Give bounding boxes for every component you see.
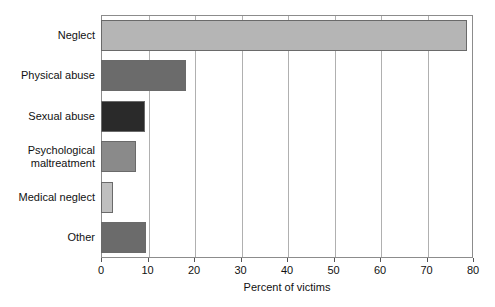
x-tick-mark	[380, 258, 381, 262]
x-tick-mark	[473, 258, 474, 262]
category-label: Medical neglect	[0, 191, 95, 204]
category-labels: NeglectPhysical abuseSexual abusePsychol…	[0, 15, 95, 258]
x-tick-mark	[148, 258, 149, 262]
x-tick-label: 60	[360, 264, 400, 276]
bar-row	[101, 101, 473, 132]
x-tick-label: 80	[453, 264, 493, 276]
bar	[101, 182, 113, 213]
x-tick-label: 30	[221, 264, 261, 276]
category-label: Sexual abuse	[0, 110, 95, 123]
x-tick-label: 40	[267, 264, 307, 276]
x-tick-mark	[287, 258, 288, 262]
x-tick-label: 20	[174, 264, 214, 276]
bar	[101, 141, 136, 172]
x-tick-label: 50	[314, 264, 354, 276]
bar-row	[101, 20, 473, 51]
bar-chart: NeglectPhysical abuseSexual abusePsychol…	[0, 0, 495, 307]
x-tick-mark	[334, 258, 335, 262]
x-tick-label: 0	[81, 264, 121, 276]
category-label: Psychological maltreatment	[0, 144, 95, 170]
bar	[101, 101, 145, 132]
x-tick-label: 10	[128, 264, 168, 276]
bar-row	[101, 182, 473, 213]
x-tick-mark	[427, 258, 428, 262]
x-tick-mark	[194, 258, 195, 262]
x-axis-title: Percent of victims	[101, 281, 473, 293]
bar-row	[101, 60, 473, 91]
x-tick-label: 70	[407, 264, 447, 276]
x-tick-mark	[101, 258, 102, 262]
category-label: Physical abuse	[0, 69, 95, 82]
bar-row	[101, 222, 473, 253]
bar	[101, 20, 467, 51]
category-label: Neglect	[0, 29, 95, 42]
bar	[101, 222, 146, 253]
bar-row	[101, 141, 473, 172]
category-label: Other	[0, 231, 95, 244]
bars-layer	[101, 15, 473, 258]
bar	[101, 60, 186, 91]
x-tick-mark	[241, 258, 242, 262]
